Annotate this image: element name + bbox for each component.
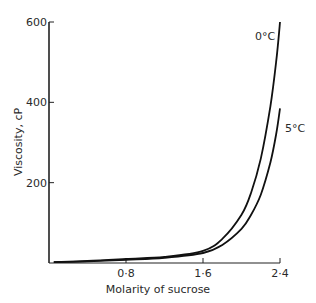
series-label-5c: 5°C: [285, 122, 305, 135]
y-axis-title: Viscosity, cP: [12, 108, 25, 176]
y-tick-label: 400: [26, 96, 47, 109]
axes: 2004006000·81·62·4Molarity of sucroseVis…: [12, 16, 289, 296]
x-tick-label: 2·4: [271, 267, 289, 280]
x-tick-label: 1·6: [194, 267, 212, 280]
series-label-0c: 0°C: [255, 30, 275, 43]
viscosity-chart: 2004006000·81·62·4Molarity of sucroseVis…: [0, 0, 316, 303]
y-tick-label: 600: [26, 16, 47, 29]
series-line-5c: [54, 108, 280, 262]
series-group: [54, 22, 280, 262]
series-line-0c: [54, 22, 280, 262]
x-axis-title: Molarity of sucrose: [106, 283, 211, 296]
x-tick-label: 0·8: [117, 267, 135, 280]
labels-group: 0°C5°C: [255, 30, 305, 135]
y-tick-label: 200: [26, 177, 47, 190]
